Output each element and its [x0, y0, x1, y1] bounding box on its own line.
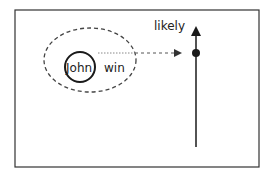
frame-border: [15, 10, 259, 167]
diagram-canvas: John win likely: [0, 0, 273, 175]
likely-label: likely: [154, 19, 185, 33]
axis-point: [192, 49, 200, 57]
win-label: win: [104, 61, 125, 75]
john-label: John: [65, 61, 92, 75]
